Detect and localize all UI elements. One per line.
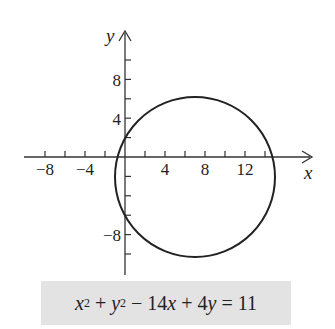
- eq-plus4: + 4: [176, 292, 207, 315]
- eq-plus: +: [90, 292, 111, 315]
- eq-x2: x: [167, 292, 176, 315]
- eq-rhs: = 11: [216, 292, 257, 315]
- eq-y: y: [111, 292, 120, 315]
- y-axis-label: y: [104, 25, 115, 46]
- y-tick-label: −8: [103, 226, 121, 245]
- equation-label: x2 + y2 − 14x + 4y = 11: [41, 281, 291, 325]
- eq-y2: y: [208, 292, 217, 315]
- x-axis-label: x: [303, 162, 313, 183]
- eq-minus14: − 14: [126, 292, 167, 315]
- y-tick-label: 8: [113, 71, 122, 90]
- x-tick-label: 4: [161, 160, 170, 179]
- eq-x: x: [75, 292, 84, 315]
- x-tick-label: 12: [237, 160, 254, 179]
- x-tick-label: −8: [36, 160, 54, 179]
- x-tick-label: 8: [201, 160, 210, 179]
- x-tick-label: −4: [76, 160, 95, 179]
- coordinate-plot: −8 −4 4 8 12 8 4 −8 x y: [0, 0, 335, 329]
- y-tick-label: 4: [113, 110, 122, 129]
